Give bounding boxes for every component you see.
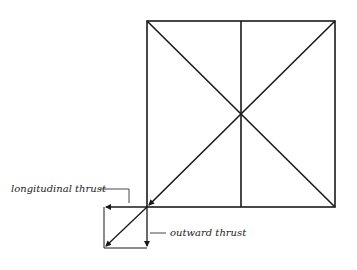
resultant-thrust-arrow bbox=[106, 207, 147, 246]
vault-thrust-diagram: longitudinal thrust outward thrust bbox=[0, 0, 357, 270]
diagonal-rib-2 bbox=[149, 21, 335, 205]
outward-thrust-label: outward thrust bbox=[170, 227, 247, 238]
longitudinal-thrust-label: longitudinal thrust bbox=[11, 183, 107, 194]
